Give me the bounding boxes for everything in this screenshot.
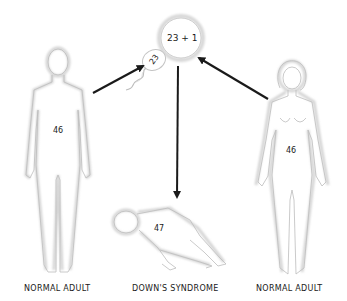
arrow-father-to-sperm: [93, 66, 143, 93]
arrow-mother-to-egg: [199, 58, 268, 99]
child-figure-icon: [113, 208, 226, 270]
child-caption: DOWN'S SYNDROME: [132, 284, 219, 293]
sperm-cell-icon: [126, 45, 169, 90]
arrow-egg-to-child: [177, 66, 178, 197]
male-figure-icon: [26, 48, 90, 272]
father-chromosome-count: 46: [53, 126, 63, 135]
father-caption: NORMAL ADULT: [24, 284, 91, 293]
female-figure-icon: [256, 61, 328, 274]
egg-chromosome-count: 23 + 1: [167, 33, 197, 43]
child-chromosome-count: 47: [154, 224, 164, 233]
mother-caption: NORMAL ADULT: [256, 284, 323, 293]
mother-chromosome-count: 46: [286, 146, 296, 155]
